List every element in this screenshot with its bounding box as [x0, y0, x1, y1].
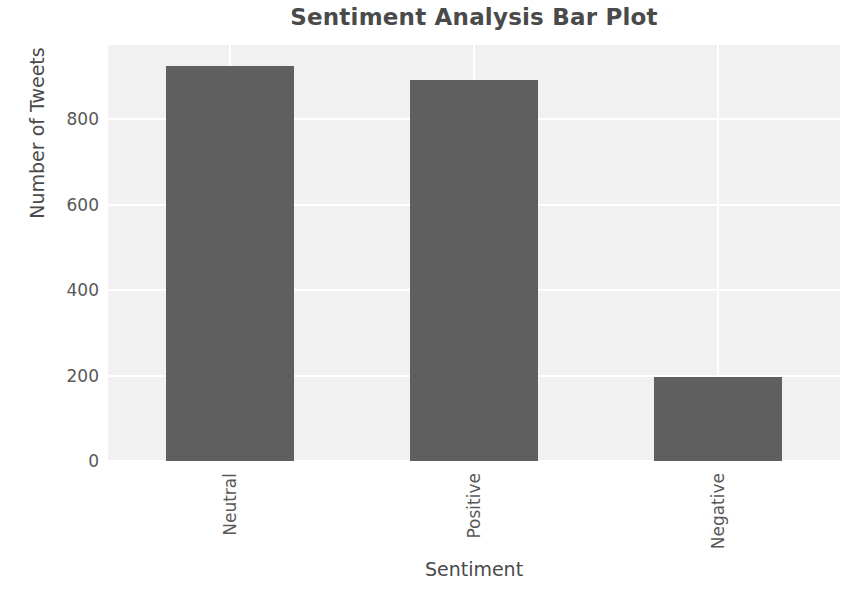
x-tick-label: Positive [464, 473, 484, 539]
x-tick-label: Negative [708, 473, 728, 549]
plot-area [108, 45, 840, 461]
x-tick-label: Neutral [220, 473, 240, 536]
y-axis-title: Number of Tweets [26, 3, 48, 263]
y-tick-label: 800 [7, 109, 99, 129]
bar-positive[interactable] [410, 80, 538, 461]
bar-negative[interactable] [654, 377, 782, 461]
x-axis-title: Sentiment [108, 558, 840, 580]
bar-chart-figure: Sentiment Analysis Bar Plot 020040060080… [0, 0, 863, 601]
y-tick-label: 600 [7, 195, 99, 215]
y-tick-label: 400 [7, 280, 99, 300]
x-axis-tick-labels: NeutralPositiveNegative [108, 461, 840, 557]
y-tick-label: 0 [7, 451, 99, 471]
bar-neutral[interactable] [166, 66, 294, 461]
chart-title: Sentiment Analysis Bar Plot [108, 4, 840, 30]
y-axis-tick-labels: 0200400600800 [0, 45, 99, 461]
y-tick-label: 200 [7, 366, 99, 386]
